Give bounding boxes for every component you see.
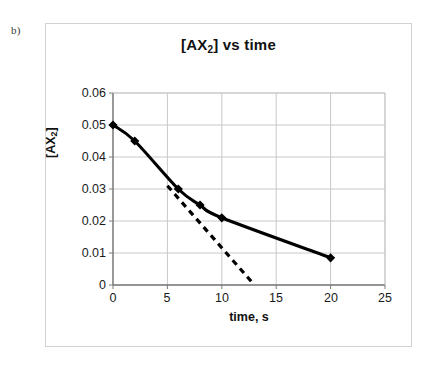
y-axis-title-subscript: 2 — [49, 131, 59, 136]
xtick-label-1: 5 — [164, 291, 171, 305]
chart-title-main: [AX — [181, 36, 207, 53]
ytick-label-2: 0.02 — [62, 214, 106, 228]
chart-title: [AX2] vs time — [46, 36, 411, 53]
xtick-label-4: 20 — [324, 291, 338, 305]
ytick-label-3: 0.03 — [62, 182, 106, 196]
chart-title-tail: ] vs time — [213, 36, 276, 53]
x-axis-title: time, s — [113, 310, 385, 324]
xtick-label-5: 25 — [378, 291, 392, 305]
chart-title-subscript: 2 — [208, 44, 214, 55]
ytick-label-1: 0.01 — [62, 246, 106, 260]
ytick-label-4: 0.04 — [62, 150, 106, 164]
y-axis-title-main: [AX — [44, 136, 58, 158]
y-axis-title: [AX2] — [44, 127, 58, 158]
ytick-label-5: 0.05 — [62, 118, 106, 132]
xtick-label-3: 15 — [269, 291, 283, 305]
xtick-label-0: 0 — [110, 291, 117, 305]
ytick-label-0: 0 — [62, 278, 106, 292]
xtick-label-2: 10 — [215, 291, 229, 305]
panel-label: b) — [11, 24, 21, 36]
ytick-label-6: 0.06 — [62, 86, 106, 100]
